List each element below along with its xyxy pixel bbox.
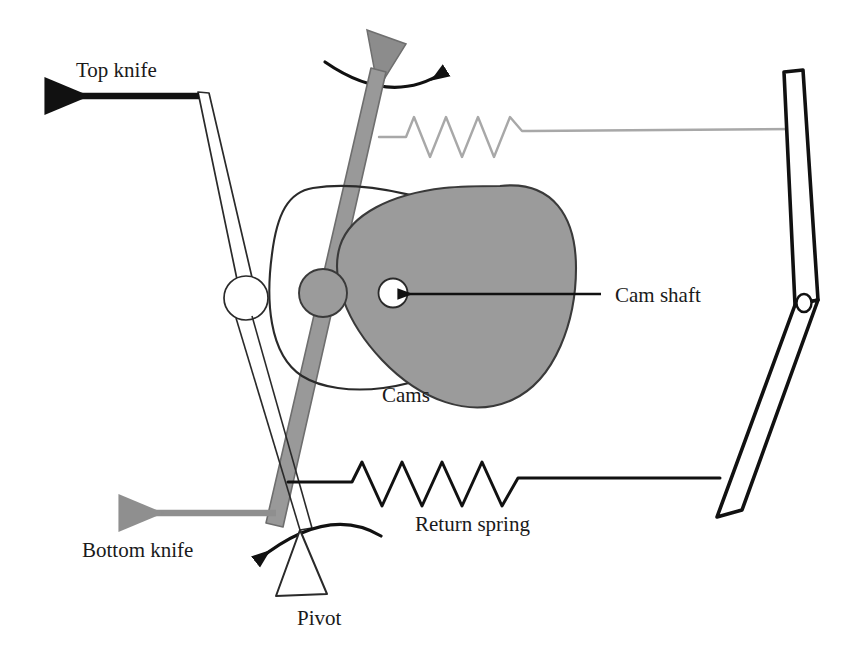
- top-knife-pivot-circle: [224, 276, 268, 320]
- rocker-lever-hole: [797, 294, 812, 312]
- follower-roller: [299, 269, 347, 317]
- bottom-knife-label: Bottom knife: [82, 538, 193, 562]
- return-spring-label: Return spring: [415, 512, 530, 536]
- cam-shaft-label: Cam shaft: [615, 283, 701, 307]
- top-knife-label: Top knife: [76, 58, 157, 82]
- diagram-canvas: Top knife Cam shaft Cams Return spring: [0, 0, 865, 648]
- cams-label: Cams: [382, 383, 430, 407]
- mechanical-diagram: Top knife Cam shaft Cams Return spring: [0, 0, 865, 648]
- pivot-label: Pivot: [297, 606, 342, 630]
